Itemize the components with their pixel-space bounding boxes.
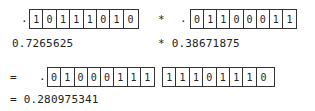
radix-point: . — [39, 71, 46, 83]
bit-cell: 1 — [243, 68, 256, 86]
bit-cell: 1 — [217, 68, 230, 86]
bit-cell: 0 — [48, 68, 61, 86]
operand-b-decimal: * 0.38671875 — [158, 38, 240, 50]
bit-cell: 0 — [257, 10, 270, 28]
bit-cell: 1 — [217, 10, 230, 28]
bit-cell: 0 — [101, 68, 114, 86]
operand-a-bits: 1 0 1 1 1 0 1 0 — [29, 9, 139, 29]
bit-cell: 1 — [30, 10, 43, 28]
bit-cell: 1 — [128, 68, 141, 86]
bit-cell: 0 — [43, 10, 56, 28]
bit-cell: 0 — [124, 10, 137, 28]
bit-cell: 0 — [244, 10, 257, 28]
multiply-operator: * — [158, 14, 165, 26]
result-low-bits: 1 1 1 0 1 1 1 0 — [162, 67, 275, 87]
bit-cell: 0 — [75, 68, 88, 86]
bit-cell: 0 — [97, 10, 110, 28]
operand-a-decimal: 0.7265625 — [12, 38, 73, 50]
bit-cell: 1 — [114, 68, 127, 86]
bit-cell: 0 — [230, 10, 243, 28]
bit-cell: 1 — [176, 68, 189, 86]
bit-cell: 1 — [283, 10, 296, 28]
radix-point: . — [180, 13, 187, 25]
bit-cell: 1 — [163, 68, 176, 86]
bit-cell: 1 — [230, 68, 243, 86]
result-high-bits: 0 1 0 0 0 1 1 1 — [47, 67, 155, 87]
bit-cell: 1 — [110, 10, 123, 28]
equals-sign: = — [10, 72, 17, 84]
operand-b-bits: 0 1 1 0 0 0 1 1 — [190, 9, 297, 29]
bit-cell: 1 — [270, 10, 283, 28]
bit-cell: 0 — [257, 68, 270, 86]
bit-cell: 1 — [70, 10, 83, 28]
bit-cell: 1 — [61, 68, 74, 86]
bit-cell: 0 — [203, 68, 216, 86]
bit-cell: 1 — [141, 68, 154, 86]
radix-point: . — [21, 13, 28, 25]
bit-cell: 1 — [190, 68, 203, 86]
bit-cell: 0 — [191, 10, 204, 28]
bit-cell: 1 — [204, 10, 217, 28]
bit-cell: 1 — [84, 10, 97, 28]
bit-cell: 1 — [57, 10, 70, 28]
result-decimal: = 0.280975341 — [10, 94, 99, 106]
bit-cell: 0 — [88, 68, 101, 86]
